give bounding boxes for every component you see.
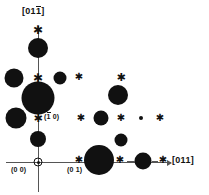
diffraction-spot bbox=[94, 111, 109, 126]
vertical-axis-label: [011] bbox=[22, 6, 45, 16]
diffraction-spot bbox=[5, 69, 24, 88]
satellite-reflection-star: ✱ bbox=[33, 72, 43, 84]
label-minus1-0: (1 0) bbox=[44, 112, 59, 120]
satellite-reflection-star: ✱ bbox=[75, 155, 83, 165]
diffraction-spot bbox=[30, 131, 46, 147]
diffraction-spot bbox=[54, 72, 67, 85]
satellite-reflection-star: ✱ bbox=[159, 155, 167, 165]
satellite-reflection-star: ✱ bbox=[116, 155, 124, 165]
label-origin: (0 0) bbox=[11, 166, 26, 173]
diffraction-spot bbox=[6, 108, 27, 129]
satellite-reflection-star: ✱ bbox=[75, 72, 83, 82]
diffraction-spot bbox=[28, 38, 48, 58]
satellite-reflection-star: ✱ bbox=[77, 113, 85, 123]
diffraction-spot bbox=[139, 116, 143, 120]
connector-dash bbox=[152, 161, 158, 162]
diffraction-spot bbox=[84, 145, 114, 175]
label-0-1: (0 1) bbox=[67, 166, 82, 173]
satellite-reflection-star: ✱ bbox=[156, 113, 164, 123]
satellite-reflection-star: ✱ bbox=[33, 24, 43, 36]
origin-marker bbox=[34, 158, 43, 167]
diffraction-spot bbox=[115, 134, 128, 147]
satellite-reflection-star: ✱ bbox=[116, 72, 125, 83]
diffraction-spot bbox=[135, 153, 152, 170]
diffraction-spot bbox=[108, 85, 128, 105]
diffraction-spot bbox=[22, 82, 55, 115]
connector-dash bbox=[127, 161, 135, 162]
horizontal-axis-label: [011] bbox=[172, 155, 194, 165]
satellite-reflection-star: ✱ bbox=[117, 113, 125, 123]
diffraction-pattern-figure: ✱ ✱ ✱ ✱ ✱ ✱ ✱ ✱ ✱ ✱ ✱ (0 0) (0 1) (1 0) … bbox=[0, 0, 209, 195]
satellite-reflection-star: ✱ bbox=[33, 113, 42, 124]
